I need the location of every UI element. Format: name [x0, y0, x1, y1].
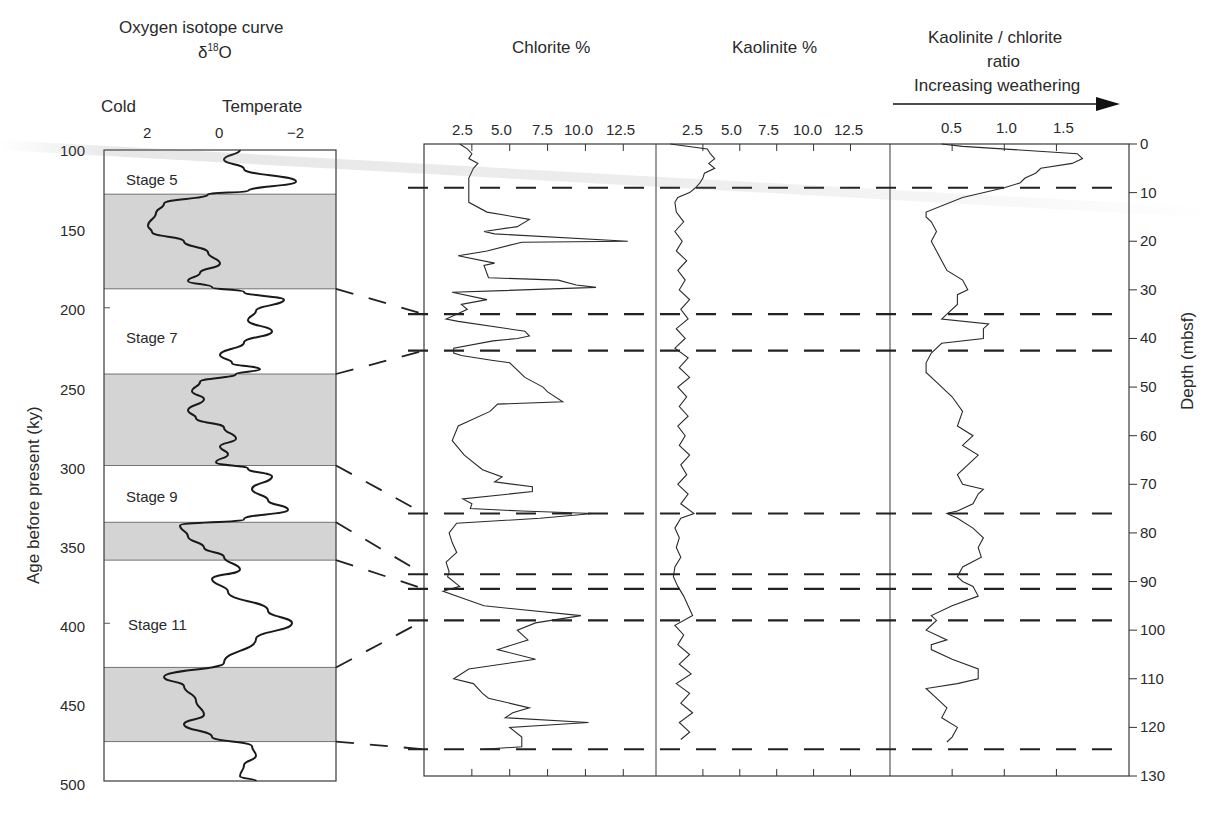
- chart-canvas: [0, 0, 1222, 819]
- weathering-arrow-icon: [893, 97, 1120, 111]
- correlation-lines: [408, 188, 1118, 750]
- stage-bands: [104, 194, 336, 741]
- mineral-curves: [443, 144, 1082, 749]
- correlation-links: [336, 289, 424, 749]
- mineral-panels-frame: [424, 144, 1129, 776]
